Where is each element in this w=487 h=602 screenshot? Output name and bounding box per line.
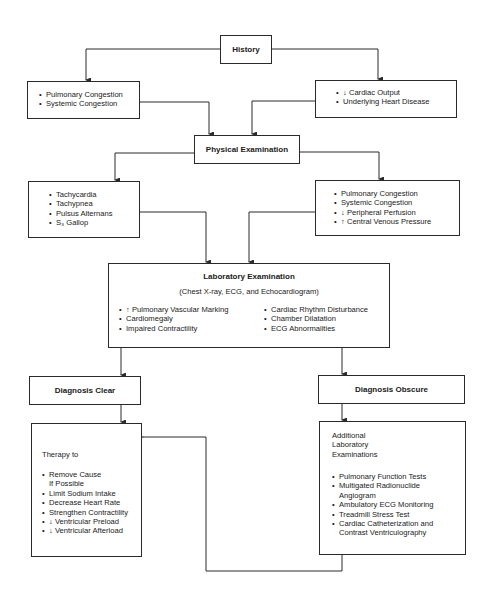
arrow-right2-lab	[249, 212, 315, 262]
list-item: •Strengthen Contractility	[42, 508, 128, 517]
list-item: •Cardiac Rhythm Disturbance	[264, 305, 368, 314]
physical-exam-box: Physical Examination	[194, 135, 300, 164]
list-item: •Systemic Congestion	[334, 198, 431, 207]
therapy-heading: Therapy to	[42, 450, 78, 459]
arrow-physical-right2	[299, 152, 379, 179]
additional-exams-box: Additional Laboratory Examinations •Pulm…	[319, 421, 466, 555]
list-item: •Ambulatory ECG Monitoring	[332, 500, 434, 509]
list-item: •Tachypnea	[49, 199, 113, 208]
lab-right-list: •Cardiac Rhythm Disturbance •Chamber Dil…	[264, 305, 368, 333]
list-item: •↑ Pulmonary Vascular Marking	[119, 305, 228, 314]
list-item: •Cardiac Catheterization and	[332, 519, 434, 528]
additional-list: •Pulmonary Function Tests •Multigated Ra…	[332, 472, 434, 538]
history-left-list: •Pulmonary Congestion •Systemic Congesti…	[39, 90, 123, 109]
list-item: •Pulsus Alternans	[49, 209, 113, 218]
list-item: •Systemic Congestion	[39, 99, 123, 108]
arrow-physical-left2	[115, 153, 194, 180]
list-item: •Limit Sodium Intake	[42, 489, 128, 498]
list-item: •Pulmonary Congestion	[39, 90, 123, 99]
list-item: •↓ Ventricular Afterload	[42, 526, 128, 535]
diagnosis-clear-box: Diagnosis Clear	[29, 376, 141, 405]
history-left-box: •Pulmonary Congestion •Systemic Congesti…	[27, 81, 140, 119]
list-item: •Tachycardia	[49, 190, 113, 199]
history-title: History	[221, 45, 271, 54]
history-right-list: •↓ Cardiac Output •Underlying Heart Dise…	[336, 88, 430, 107]
list-item: •↓ Cardiac Output	[336, 88, 430, 97]
physical-right-box: •Pulmonary Congestion •Systemic Congesti…	[315, 180, 460, 236]
list-item: •Cardiomegaly	[119, 314, 228, 323]
lab-exam-title: Laboratory Examination	[109, 272, 389, 281]
list-item: •Decrease Heart Rate	[42, 498, 128, 507]
arrow-left1-physical	[139, 102, 209, 134]
list-item: •Pulmonary Congestion	[334, 189, 431, 198]
additional-heading: Additional Laboratory Examinations	[332, 431, 378, 459]
history-box: History	[220, 35, 272, 64]
arrow-history-right	[271, 49, 378, 79]
list-item: •S₃ Gallop	[49, 218, 113, 227]
physical-left-list: •Tachycardia •Tachypnea •Pulsus Alternan…	[49, 190, 113, 228]
list-item: •Treadmill Stress Test	[332, 510, 434, 519]
list-item: •ECG Abnormalities	[264, 324, 368, 333]
list-item: •Multigated Radionuclide	[332, 481, 434, 490]
list-item: •Chamber Dilatation	[264, 314, 368, 323]
list-item: •Remove Cause	[42, 470, 128, 479]
arrow-left2-lab	[139, 212, 206, 262]
list-item-continuation: Angiogram	[332, 491, 434, 500]
history-right-box: •↓ Cardiac Output •Underlying Heart Dise…	[315, 80, 457, 118]
lab-left-list: •↑ Pulmonary Vascular Marking •Cardiomeg…	[119, 305, 228, 333]
physical-left-box: •Tachycardia •Tachypnea •Pulsus Alternan…	[28, 181, 140, 238]
list-item: •Pulmonary Function Tests	[332, 472, 434, 481]
diagnosis-obscure-title: Diagnosis Obscure	[319, 385, 464, 394]
physical-right-list: •Pulmonary Congestion •Systemic Congesti…	[334, 189, 431, 227]
arrow-right1-physical	[252, 101, 315, 134]
arrow-additional-therapy	[143, 437, 342, 571]
lab-exam-box: Laboratory Examination (Chest X-ray, ECG…	[108, 263, 390, 348]
list-item: •↓ Peripheral Perfusion	[334, 208, 431, 217]
list-item: •Underlying Heart Disease	[336, 97, 430, 106]
list-item: •Impaired Contractility	[119, 324, 228, 333]
diagnosis-obscure-box: Diagnosis Obscure	[318, 375, 465, 404]
physical-exam-title: Physical Examination	[195, 145, 299, 154]
therapy-list: •Remove Cause If Possible •Limit Sodium …	[42, 470, 128, 536]
list-item: •↑ Central Venous Pressure	[334, 217, 431, 226]
arrow-history-left	[86, 49, 220, 80]
list-item-continuation: If Possible	[42, 479, 128, 488]
lab-exam-subtitle: (Chest X-ray, ECG, and Echocardiogram)	[109, 287, 389, 296]
therapy-box: Therapy to •Remove Cause If Possible •Li…	[31, 423, 142, 557]
list-item-continuation: Contrast Ventriculography	[332, 528, 434, 537]
list-item: •↓ Ventricular Preload	[42, 517, 128, 526]
diagnosis-clear-title: Diagnosis Clear	[30, 386, 140, 395]
